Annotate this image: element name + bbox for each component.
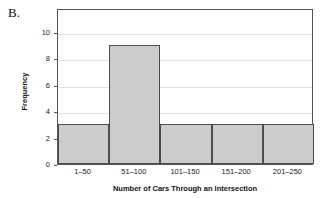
histogram-figure: B. 0246810 Frequency 1–5051–100101–15015…	[0, 0, 321, 198]
y-tick-label: 6	[46, 82, 50, 90]
x-axis: 1–5051–100101–150151–200201–250	[57, 168, 313, 180]
y-tick-label: 4	[46, 108, 50, 116]
y-tick-label: 2	[46, 135, 50, 143]
histogram-bar	[263, 124, 314, 164]
y-axis: 0246810	[0, 0, 57, 198]
y-tick-label: 0	[46, 161, 50, 169]
y-axis-title: Frequency	[20, 52, 29, 132]
histogram-bar	[212, 124, 263, 164]
x-tick-label: 151–200	[222, 168, 251, 176]
x-tick-label: 101–150	[170, 168, 199, 176]
bars-layer	[58, 10, 312, 164]
y-tick-mark	[54, 165, 57, 166]
x-axis-title: Number of Cars Through an Intersection	[57, 184, 313, 193]
histogram-bar	[109, 45, 160, 164]
histogram-bar	[58, 124, 109, 164]
y-tick-label: 8	[46, 55, 50, 63]
x-tick-label: 51–100	[121, 168, 146, 176]
x-tick-label: 1–50	[74, 168, 91, 176]
x-tick-label: 201–250	[273, 168, 302, 176]
y-tick-label: 10	[42, 29, 50, 37]
plot-area	[57, 9, 313, 165]
histogram-bar	[160, 124, 211, 164]
